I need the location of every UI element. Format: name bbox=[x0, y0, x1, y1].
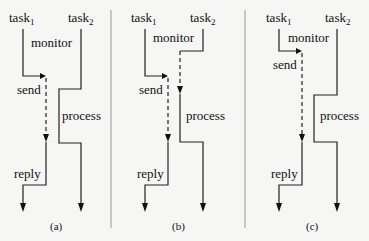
process-label: process bbox=[62, 108, 101, 123]
task1-label: task1 bbox=[9, 10, 34, 27]
task-timing-diagram: task1 task2 monitor send process reply (… bbox=[0, 0, 369, 241]
panel-a: task1 task2 monitor send process reply (… bbox=[9, 10, 101, 233]
task2-end-arrowhead-icon bbox=[78, 203, 84, 212]
task1-end-arrowhead-icon bbox=[142, 203, 148, 212]
process-label: process bbox=[186, 108, 225, 123]
send-label: send bbox=[139, 82, 163, 97]
reply-label: reply bbox=[14, 166, 41, 181]
task2-end-arrowhead-icon bbox=[200, 203, 206, 212]
panel-b: task1 task2 monitor send process reply (… bbox=[131, 10, 225, 233]
panel-c: task1 task2 monitor send process reply (… bbox=[266, 10, 359, 233]
task1-end-arrowhead-icon bbox=[276, 203, 282, 212]
process-label: process bbox=[320, 108, 359, 123]
reply-label: reply bbox=[271, 166, 298, 181]
task1-label: task1 bbox=[131, 10, 156, 27]
reply-label: reply bbox=[137, 166, 164, 181]
panel-caption-c: (c) bbox=[306, 220, 319, 233]
panel-caption-b: (b) bbox=[172, 220, 185, 233]
send-arrowhead-icon bbox=[296, 48, 302, 54]
send-arrowhead-icon bbox=[40, 73, 46, 79]
panel-caption-a: (a) bbox=[50, 220, 63, 233]
task2-end-arrowhead-icon bbox=[334, 203, 340, 212]
wait-arrowhead-icon bbox=[299, 134, 305, 142]
monitor-label: monitor bbox=[288, 30, 330, 45]
wait-arrowhead-icon bbox=[165, 134, 171, 142]
monitor-label: monitor bbox=[31, 35, 73, 50]
task2-label: task2 bbox=[190, 10, 215, 27]
task2-wait-arrowhead-icon bbox=[177, 86, 183, 94]
task2-label: task2 bbox=[68, 10, 93, 27]
task2-label: task2 bbox=[325, 10, 350, 27]
task1-label: task1 bbox=[266, 10, 291, 27]
send-arrowhead-icon bbox=[162, 73, 168, 79]
send-label: send bbox=[273, 57, 297, 72]
send-label: send bbox=[17, 82, 41, 97]
task1-end-arrowhead-icon bbox=[20, 203, 26, 212]
monitor-label: monitor bbox=[153, 30, 195, 45]
wait-arrowhead-icon bbox=[43, 134, 49, 142]
